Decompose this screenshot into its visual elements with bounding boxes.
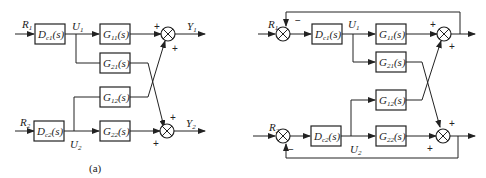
sum1-plus-sign-lower-b: +: [449, 41, 455, 52]
diagram-b: R1 − Dc1(s) U1 G11(s) G21(s) + + R2: [253, 12, 475, 158]
y2-label: Y2: [186, 117, 196, 131]
sum2-plus-sign-upper: +: [170, 112, 176, 123]
block-diagrams: R1 Dc1(s) U1 G11(s) G21(s) + + Y1 R2: [0, 0, 486, 178]
r2-label: R2: [19, 116, 31, 130]
r1-label: R1: [21, 18, 32, 32]
u1-label: U1: [72, 20, 83, 34]
sum1-plus-sign: +: [154, 21, 160, 32]
sum2-plus-sign-b: +: [427, 143, 433, 154]
sum1-plus-sign-b: +: [430, 19, 436, 30]
u2-label-b: U2: [350, 143, 362, 157]
u1-label-b: U1: [348, 18, 359, 32]
caption-a: (a): [89, 162, 102, 175]
u2-label: U2: [70, 138, 82, 152]
sum1-plus-sign-lower: +: [172, 43, 178, 54]
r1-label-b: R1: [267, 18, 278, 32]
y1-label: Y1: [187, 20, 197, 34]
error2-minus-sign: −: [288, 144, 294, 155]
error1-minus-sign: −: [295, 15, 301, 26]
sum2-plus-sign-upper-b: +: [449, 118, 455, 129]
diagram-a: R1 Dc1(s) U1 G11(s) G21(s) + + Y1 R2: [15, 18, 205, 175]
sum2-plus-sign: +: [153, 138, 159, 149]
